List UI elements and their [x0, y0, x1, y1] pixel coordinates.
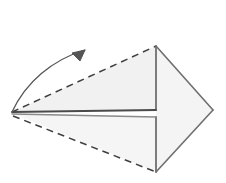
- figure-root: Paper folding step diagram: [0, 0, 226, 183]
- paper-folding-diagram: [0, 0, 226, 183]
